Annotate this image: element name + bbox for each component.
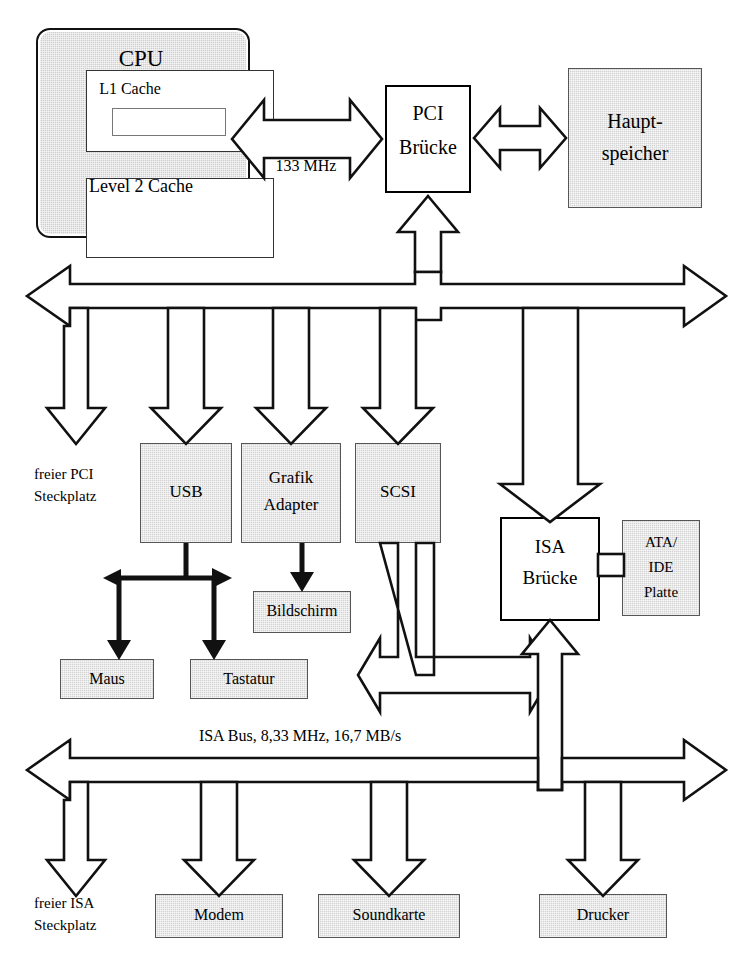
graphics-to-monitor-arrowhead	[290, 572, 314, 592]
memory-bus-arrow	[474, 108, 566, 168]
connector-layer	[0, 0, 732, 967]
pci-bridge-to-bus-arrow	[398, 196, 458, 272]
isa-branch-arrow-modem	[184, 782, 254, 896]
pci-branch-arrow-scsi	[363, 308, 433, 444]
system-bus-arrow	[232, 100, 382, 178]
pci-branch-arrow-graphics	[256, 308, 326, 444]
pci-to-isa-bridge-arrow	[500, 308, 600, 522]
isa-to-ata-connector	[598, 554, 624, 576]
scsi-bus-arrow	[358, 543, 552, 712]
isa-branch-arrow-soundcard	[354, 782, 424, 896]
pci-branch-arrow-free-slot	[47, 308, 105, 444]
usb-to-mouse-arrowhead	[107, 640, 131, 660]
isa-branch-arrow-free-slot	[47, 782, 105, 896]
architecture-diagram: CPU L1 Cache Level 2 Cache PCI Brücke Ha…	[0, 0, 732, 967]
pci-branch-arrow-usb	[151, 308, 221, 444]
isa-branch-arrow-printer	[568, 782, 638, 896]
usb-to-keyboard-arrowhead	[202, 640, 226, 660]
pci-bus-arrow	[27, 266, 726, 326]
